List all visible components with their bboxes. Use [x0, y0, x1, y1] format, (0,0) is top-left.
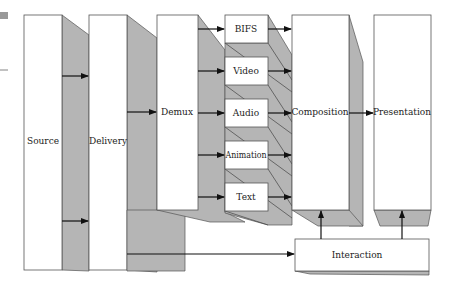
- audio-label: Audio: [232, 108, 259, 118]
- composition-block: Composition: [291, 15, 363, 226]
- demux-label: Demux: [161, 107, 193, 117]
- source-block: Source: [24, 15, 89, 271]
- mpeg4-pipeline-diagram: Source Delivery Demux BIFS Video Aud: [0, 0, 452, 290]
- presentation-block: Presentation: [373, 15, 431, 226]
- delivery-shadow-lower: [127, 210, 185, 271]
- source-label: Source: [27, 136, 59, 146]
- corner-mark: [0, 12, 8, 19]
- bifs-block: BIFS: [225, 15, 268, 43]
- interaction-shadow: [295, 271, 429, 275]
- delivery-label: Delivery: [89, 136, 128, 146]
- interaction-label: Interaction: [332, 250, 383, 260]
- animation-block: Animation: [225, 141, 268, 169]
- video-block: Video: [225, 57, 268, 85]
- text-block: Text: [225, 183, 268, 211]
- audio-block: Audio: [225, 99, 268, 127]
- composition-shadow-right: [349, 15, 363, 226]
- composition-label: Composition: [291, 107, 348, 117]
- text-label: Text: [236, 192, 256, 202]
- animation-label: Animation: [225, 150, 267, 160]
- presentation-label: Presentation: [373, 107, 431, 117]
- video-label: Video: [232, 66, 259, 76]
- source-shadow: [62, 15, 89, 271]
- interaction-block: Interaction: [295, 239, 429, 275]
- bifs-label: BIFS: [235, 24, 258, 34]
